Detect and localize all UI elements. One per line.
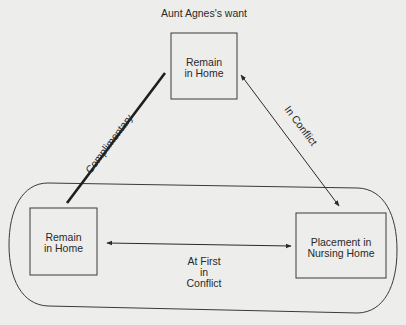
node-left-remain-in-home: Remain in Home (30, 208, 97, 275)
edge-at-first-label-line3: Conflict (186, 277, 221, 289)
edge-complimentary-label: Complimentary (83, 111, 136, 175)
edge-in-conflict-label: In Conflict (282, 103, 320, 148)
node-right-placement-nursing-home: Placement in Nursing Home (296, 213, 386, 278)
diagram-title: Aunt Agnes's want (161, 7, 247, 19)
diagram-canvas: Aunt Agnes's want Remain in Home Remain … (0, 0, 406, 325)
relationship-diagram: Aunt Agnes's want Remain in Home Remain … (0, 0, 406, 325)
node-right-line2: Nursing Home (307, 247, 374, 259)
node-left-line2: in Home (44, 242, 83, 254)
node-top-line2: in Home (184, 67, 223, 79)
edge-at-first-in-conflict-arrow (107, 243, 291, 246)
node-top-remain-in-home: Remain in Home (171, 33, 237, 99)
